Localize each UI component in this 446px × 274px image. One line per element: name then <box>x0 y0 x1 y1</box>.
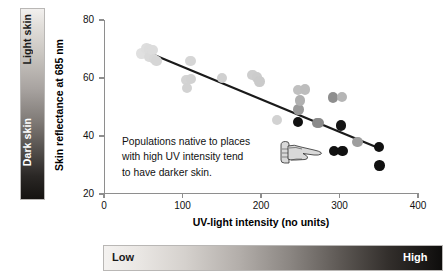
pointing-hand-icon <box>279 140 324 168</box>
data-point <box>374 160 384 170</box>
y-axis-title: Skin reflectance at 685 nm <box>50 10 68 200</box>
data-point <box>300 84 310 94</box>
x-tick-label: 0 <box>84 200 124 211</box>
light-skin-label: Light skin <box>21 14 44 65</box>
annotation-line-3: to have darker skin. <box>122 165 287 180</box>
dark-skin-label: Dark skin <box>21 118 44 166</box>
y-tick-label: 60 <box>64 72 94 83</box>
data-point <box>185 56 195 66</box>
uv-high-label: High <box>403 251 427 263</box>
x-tick-label: 100 <box>163 200 203 211</box>
x-tick-label: 400 <box>398 200 438 211</box>
data-point <box>374 142 384 152</box>
figure-skin-reflectance-vs-uv: Light skin Dark skin Skin reflectance at… <box>0 0 446 274</box>
data-point <box>336 120 346 130</box>
x-tick-label: 300 <box>320 200 360 211</box>
data-point <box>272 115 282 125</box>
annotation-line-2: with high UV intensity tend <box>122 149 287 164</box>
x-tick-label: 200 <box>241 200 281 211</box>
data-point <box>352 137 362 147</box>
uv-low-label: Low <box>112 251 134 263</box>
y-tick-label: 80 <box>64 14 94 25</box>
x-axis-title: UV-light intensity (no units) <box>104 216 418 228</box>
uv-intensity-gradient-bar <box>103 245 443 271</box>
data-point <box>337 146 347 156</box>
data-point <box>151 56 161 66</box>
annotation-text: Populations native to places with high U… <box>122 134 287 180</box>
data-point <box>254 76 264 86</box>
y-tick-label: 40 <box>64 130 94 141</box>
y-tick-label: 20 <box>64 188 94 199</box>
annotation-line-1: Populations native to places <box>122 134 287 149</box>
